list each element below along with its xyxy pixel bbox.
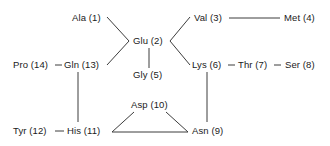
node-label-asp10: Asp (10) — [131, 100, 168, 110]
node-label-pro14: Pro (14) — [13, 60, 48, 70]
node-label-gly5: Gly (5) — [133, 70, 162, 80]
node-label-glu2: Glu (2) — [133, 36, 163, 46]
node-label-ala1: Ala (1) — [72, 13, 101, 23]
edge-his11-asp10 — [112, 112, 134, 132]
edge-glu2-lys6 — [170, 41, 190, 65]
node-label-val3: Val (3) — [194, 13, 222, 23]
edge-ala1-glu2 — [107, 17, 129, 41]
edge-glu2-val3 — [170, 17, 190, 41]
node-label-asn9: Asn (9) — [192, 126, 223, 136]
node-label-ser8: Ser (8) — [285, 60, 315, 70]
node-label-gln13: Gln (13) — [64, 60, 99, 70]
amino-acid-network-diagram: Ala (1)Glu (2)Val (3)Met (4)Gly (5)Lys (… — [0, 0, 330, 146]
node-label-lys6: Lys (6) — [192, 60, 221, 70]
node-label-his11: His (11) — [67, 126, 100, 136]
edge-layer — [0, 0, 330, 146]
node-label-met4: Met (4) — [284, 13, 315, 23]
node-label-tyr12: Tyr (12) — [13, 126, 47, 136]
edge-gln13-glu2 — [107, 41, 129, 65]
edge-asp10-asn9 — [166, 112, 188, 132]
node-label-thr7: Thr (7) — [238, 60, 267, 70]
